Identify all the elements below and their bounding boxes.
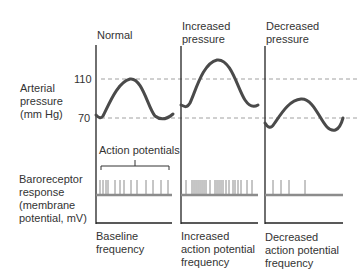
- action-potentials-normal: [100, 180, 168, 195]
- action-potentials-increased: [186, 180, 252, 195]
- action-potentials-bracket: [101, 160, 169, 170]
- action-potentials-decreased: [273, 180, 305, 195]
- column-title-increased: Increasedpressure: [182, 20, 230, 46]
- footer-decreased: Decreasedaction potentialfrequency: [265, 231, 339, 270]
- footer-increased: Increasedaction potentialfrequency: [181, 230, 255, 269]
- pressure-curve-normal: [96, 79, 173, 119]
- y-label-arterial-pressure: Arterial pressure (mm Hg): [20, 82, 63, 121]
- y-label-baroreceptor-response: Baroreceptor response (membrane potentia…: [19, 173, 87, 225]
- footer-normal: Baselinefrequency: [96, 230, 144, 256]
- action-potentials-label: Action potentials: [99, 144, 180, 157]
- column-title-decreased: Decreasedpressure: [266, 20, 319, 46]
- tick-70: 70: [78, 112, 90, 125]
- column-title-normal: Normal: [97, 29, 132, 42]
- tick-110: 110: [74, 73, 92, 86]
- pressure-curve-decreased: [265, 99, 343, 130]
- pressure-curve-increased: [181, 60, 258, 107]
